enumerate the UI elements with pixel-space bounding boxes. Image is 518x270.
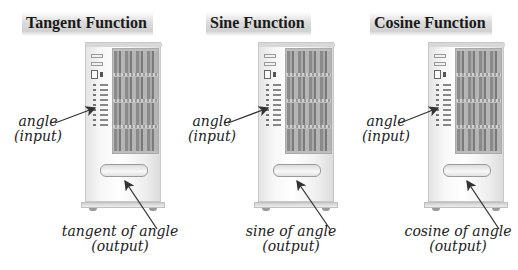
sine-function-title: Sine Function [206, 12, 311, 36]
output-tray [100, 164, 148, 177]
tangent-function-title: Tangent Function [22, 12, 153, 36]
coin-slot-icon [434, 70, 441, 79]
output-tray [443, 164, 491, 177]
tangent-input-label: angle (input) [14, 114, 62, 144]
machine-body [428, 42, 504, 202]
product-window [455, 48, 502, 154]
sine-output-label: sine of angle (output) [236, 224, 346, 254]
product-window [112, 48, 159, 154]
cosine-input-label: angle (input) [362, 114, 410, 144]
cosine-function-title: Cosine Function [370, 12, 492, 36]
coin-slot-icon [264, 70, 271, 79]
cosine-vending-machine [428, 42, 504, 212]
control-panel [261, 48, 283, 140]
machine-body [258, 42, 334, 202]
machine-body [85, 42, 161, 202]
control-panel [88, 48, 110, 140]
coin-slot-icon [91, 70, 98, 79]
cosine-output-label: cosine of angle (output) [398, 224, 518, 254]
sine-vending-machine [258, 42, 334, 212]
tangent-vending-machine [85, 42, 161, 212]
tangent-output-label: tangent of angle (output) [50, 224, 190, 254]
product-window [285, 48, 332, 154]
output-tray [273, 164, 321, 177]
control-panel [431, 48, 453, 140]
sine-input-label: angle (input) [188, 114, 236, 144]
